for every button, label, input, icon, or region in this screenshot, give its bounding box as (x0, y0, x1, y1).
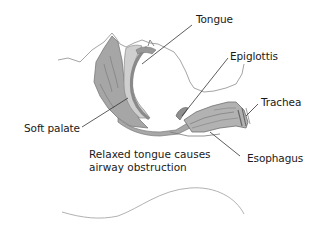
label-soft-palate: Soft palate (24, 122, 80, 134)
caption-line-2: airway obstruction (89, 161, 211, 174)
leader-trachea (246, 104, 258, 116)
label-esophagus: Esophagus (247, 152, 303, 164)
anatomy-illustration (0, 0, 313, 227)
chin-curve (62, 188, 244, 218)
label-tongue: Tongue (196, 13, 233, 25)
caption: Relaxed tongue causes airway obstruction (89, 148, 211, 173)
label-trachea: Trachea (261, 96, 301, 108)
label-epiglottis: Epiglottis (230, 50, 278, 62)
leader-esophagus (210, 132, 240, 156)
leader-tongue (142, 25, 192, 64)
caption-line-1: Relaxed tongue causes (89, 148, 211, 161)
airway-diagram: Tongue Epiglottis Trachea Soft palate Es… (0, 0, 313, 227)
